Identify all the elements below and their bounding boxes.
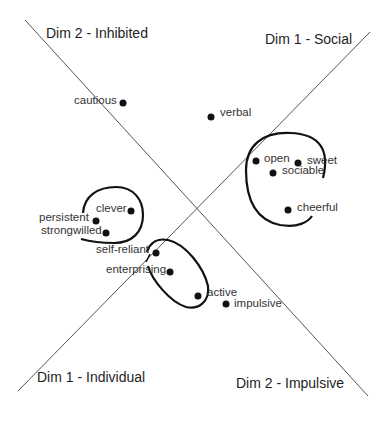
label-enterprising: enterprising <box>106 263 166 275</box>
point-cautious <box>120 100 127 107</box>
point-open <box>253 158 260 165</box>
label-persistent: persistent <box>39 211 89 223</box>
axis-label-dim2-impulsive: Dim 2 - Impulsive <box>236 375 344 391</box>
label-clever: clever <box>96 202 127 214</box>
diagram-canvas: Dim 2 - Inhibited Dim 1 - Social Dim 1 -… <box>0 0 388 422</box>
label-sociable: sociable <box>282 164 324 176</box>
point-clever <box>128 208 135 215</box>
point-enterprising <box>167 269 174 276</box>
axis-label-dim1-individual: Dim 1 - Individual <box>37 369 145 385</box>
axis-label-dim2-inhibited: Dim 2 - Inhibited <box>46 25 148 41</box>
point-verbal <box>208 114 215 121</box>
point-cheerful <box>285 207 292 214</box>
point-active <box>195 293 202 300</box>
label-self-reliant: self-reliant <box>96 243 149 255</box>
point-sociable <box>270 170 277 177</box>
axis-label-dim1-social: Dim 1 - Social <box>265 31 352 47</box>
label-strongwilled: strongwilled <box>41 224 102 236</box>
label-open: open <box>264 152 290 164</box>
label-active: active <box>207 286 237 298</box>
label-cautious: cautious <box>74 94 117 106</box>
self-reliant-tick <box>146 254 150 262</box>
point-strongwilled <box>103 230 110 237</box>
label-cheerful: cheerful <box>297 201 338 213</box>
point-impulsive <box>223 301 230 308</box>
label-impulsive: impulsive <box>234 297 282 309</box>
point-self-reliant <box>153 250 160 257</box>
label-verbal: verbal <box>220 106 251 118</box>
